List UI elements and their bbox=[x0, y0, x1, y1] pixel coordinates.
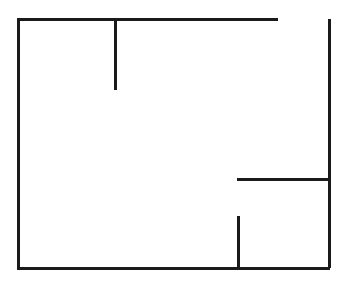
floor-plan-drawing bbox=[0, 0, 348, 286]
floor-plan-canvas bbox=[0, 0, 348, 286]
plan-background bbox=[0, 0, 348, 286]
